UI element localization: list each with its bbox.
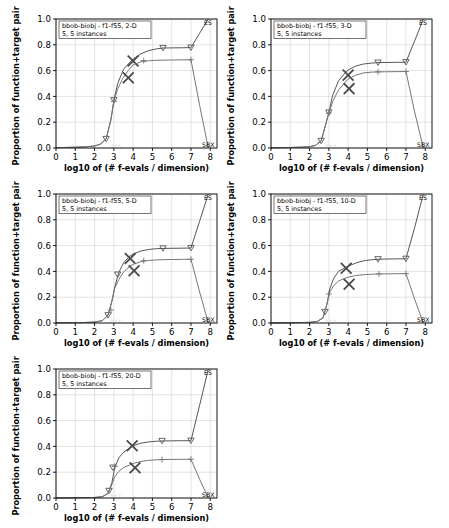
algo-label-es: ES bbox=[204, 369, 212, 376]
svg-text:2: 2 bbox=[92, 152, 97, 162]
svg-text:7: 7 bbox=[188, 502, 193, 512]
svg-text:7: 7 bbox=[188, 327, 193, 337]
svg-text:5: 5 bbox=[150, 152, 155, 162]
legend-subtitle: 5, 5 instances bbox=[62, 205, 107, 213]
algo-label-sbx: SBX bbox=[417, 316, 430, 323]
svg-text:0.2: 0.2 bbox=[37, 117, 51, 127]
chart-panel-10d[interactable]: +++0123456780.00.20.40.60.81.0log10 of (… bbox=[223, 181, 438, 358]
svg-text:1.0: 1.0 bbox=[252, 14, 266, 24]
svg-text:3: 3 bbox=[111, 327, 116, 337]
ghost-marks: +++ bbox=[325, 143, 337, 148]
chart-panel-20d[interactable]: +++0123456780.00.20.40.60.81.0log10 of (… bbox=[8, 356, 223, 528]
svg-text:0: 0 bbox=[53, 152, 58, 162]
algo-label-es: ES bbox=[419, 19, 427, 26]
legend-box: bbob-biobj - f1-f55, 10-D5, 5 instances bbox=[274, 196, 366, 214]
ghost-marks: +++ bbox=[110, 493, 122, 498]
svg-text:0.4: 0.4 bbox=[37, 92, 51, 102]
svg-text:0.0: 0.0 bbox=[252, 318, 266, 328]
svg-text:0.4: 0.4 bbox=[37, 267, 51, 277]
svg-text:1.0: 1.0 bbox=[37, 189, 51, 199]
svg-text:0.2: 0.2 bbox=[37, 467, 51, 477]
legend-subtitle: 5, 5 instances bbox=[62, 30, 107, 38]
svg-text:4: 4 bbox=[130, 152, 135, 162]
svg-text:5: 5 bbox=[365, 327, 370, 337]
svg-text:3: 3 bbox=[326, 152, 331, 162]
svg-text:6: 6 bbox=[169, 502, 174, 512]
svg-text:0.6: 0.6 bbox=[37, 416, 51, 426]
svg-text:0.2: 0.2 bbox=[252, 292, 266, 302]
svg-text:1: 1 bbox=[73, 152, 78, 162]
svg-text:0.8: 0.8 bbox=[37, 215, 51, 225]
svg-text:2: 2 bbox=[92, 327, 97, 337]
algo-label-sbx: SBX bbox=[202, 141, 215, 148]
svg-text:1: 1 bbox=[288, 327, 293, 337]
y-axis-label: Proportion of function+target pairs bbox=[11, 356, 21, 516]
svg-text:0.2: 0.2 bbox=[252, 117, 266, 127]
chart-panel-3d[interactable]: +++0123456780.00.20.40.60.81.0log10 of (… bbox=[223, 6, 438, 183]
algo-label-es: ES bbox=[204, 194, 212, 201]
svg-text:2: 2 bbox=[92, 502, 97, 512]
x-axis-label: log10 of (# f-evals / dimension) bbox=[64, 338, 209, 348]
svg-text:4: 4 bbox=[345, 152, 350, 162]
svg-text:2: 2 bbox=[307, 152, 312, 162]
svg-text:0.6: 0.6 bbox=[37, 66, 51, 76]
y-axis-label: Proportion of function+target pairs bbox=[226, 6, 236, 166]
svg-text:0.6: 0.6 bbox=[252, 241, 266, 251]
chart-panel-5d[interactable]: +++0123456780.00.20.40.60.81.0log10 of (… bbox=[8, 181, 223, 358]
svg-text:0: 0 bbox=[268, 327, 273, 337]
svg-text:5: 5 bbox=[150, 502, 155, 512]
plot-svg: +++0123456780.00.20.40.60.81.0log10 of (… bbox=[8, 356, 223, 528]
svg-text:0.0: 0.0 bbox=[37, 493, 51, 503]
algo-label-sbx: SBX bbox=[202, 316, 215, 323]
svg-text:0.8: 0.8 bbox=[252, 40, 266, 50]
svg-text:3: 3 bbox=[111, 502, 116, 512]
svg-text:5: 5 bbox=[150, 327, 155, 337]
svg-text:0.8: 0.8 bbox=[37, 390, 51, 400]
svg-text:8: 8 bbox=[208, 327, 213, 337]
legend-box: bbob-biobj - f1-f55, 2-D5, 5 instances bbox=[59, 21, 151, 39]
svg-text:0.2: 0.2 bbox=[37, 292, 51, 302]
svg-text:0.4: 0.4 bbox=[252, 92, 266, 102]
svg-text:7: 7 bbox=[188, 152, 193, 162]
x-axis-label: log10 of (# f-evals / dimension) bbox=[64, 513, 209, 523]
x-axis-label: log10 of (# f-evals / dimension) bbox=[279, 163, 424, 173]
svg-text:0: 0 bbox=[268, 152, 273, 162]
svg-text:1: 1 bbox=[288, 152, 293, 162]
legend-box: bbob-biobj - f1-f55, 5-D5, 5 instances bbox=[59, 196, 151, 214]
algo-label-sbx: SBX bbox=[202, 491, 215, 498]
svg-text:0.6: 0.6 bbox=[252, 66, 266, 76]
chart-panel-2d[interactable]: +++0123456780.00.20.40.60.81.0log10 of (… bbox=[8, 6, 223, 183]
svg-text:3: 3 bbox=[111, 152, 116, 162]
y-axis-label: Proportion of function+target pairs bbox=[11, 6, 21, 166]
legend-box: bbob-biobj - f1-f55, 3-D5, 5 instances bbox=[274, 21, 366, 39]
svg-text:2: 2 bbox=[307, 327, 312, 337]
svg-text:0.8: 0.8 bbox=[37, 40, 51, 50]
ghost-marks: +++ bbox=[110, 318, 122, 323]
svg-text:0.0: 0.0 bbox=[37, 318, 51, 328]
svg-text:0.0: 0.0 bbox=[37, 143, 51, 153]
algo-label-es: ES bbox=[204, 19, 212, 26]
svg-text:0.6: 0.6 bbox=[37, 241, 51, 251]
ghost-marks: +++ bbox=[325, 318, 337, 323]
svg-text:6: 6 bbox=[384, 152, 389, 162]
x-axis-label: log10 of (# f-evals / dimension) bbox=[279, 338, 424, 348]
svg-text:8: 8 bbox=[208, 152, 213, 162]
svg-text:0.4: 0.4 bbox=[37, 442, 51, 452]
svg-text:3: 3 bbox=[326, 327, 331, 337]
svg-text:1.0: 1.0 bbox=[252, 189, 266, 199]
legend-subtitle: 5, 5 instances bbox=[277, 30, 322, 38]
plot-svg: +++0123456780.00.20.40.60.81.0log10 of (… bbox=[223, 181, 438, 358]
svg-text:4: 4 bbox=[130, 327, 135, 337]
svg-text:5: 5 bbox=[365, 152, 370, 162]
y-axis-label: Proportion of function+target pairs bbox=[226, 181, 236, 341]
algo-label-sbx: SBX bbox=[417, 141, 430, 148]
svg-text:0: 0 bbox=[53, 502, 58, 512]
plot-svg: +++0123456780.00.20.40.60.81.0log10 of (… bbox=[223, 6, 438, 183]
svg-text:4: 4 bbox=[345, 327, 350, 337]
legend-subtitle: 5, 5 instances bbox=[277, 205, 322, 213]
svg-text:8: 8 bbox=[208, 502, 213, 512]
plot-svg: +++0123456780.00.20.40.60.81.0log10 of (… bbox=[8, 6, 223, 183]
figure-panel-grid: +++0123456780.00.20.40.60.81.0log10 of (… bbox=[0, 0, 449, 528]
svg-text:6: 6 bbox=[169, 327, 174, 337]
plot-svg: +++0123456780.00.20.40.60.81.0log10 of (… bbox=[8, 181, 223, 358]
